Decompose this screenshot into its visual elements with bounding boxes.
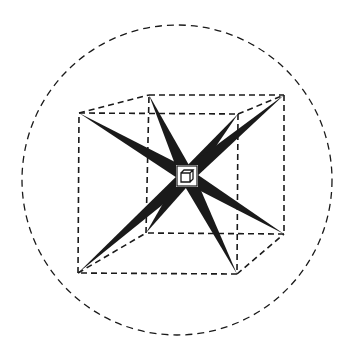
small-center-cube-icon: [176, 165, 198, 187]
cube-edge: [237, 234, 284, 274]
spike: [184, 95, 284, 180]
cube-star-diagram: [0, 0, 348, 354]
diagram-canvas: [0, 0, 348, 354]
cube-edge: [78, 233, 146, 273]
cube-edge: [79, 95, 149, 113]
cube-edge: [238, 95, 284, 114]
cube-edge: [78, 113, 79, 273]
cube-edge: [78, 273, 237, 274]
